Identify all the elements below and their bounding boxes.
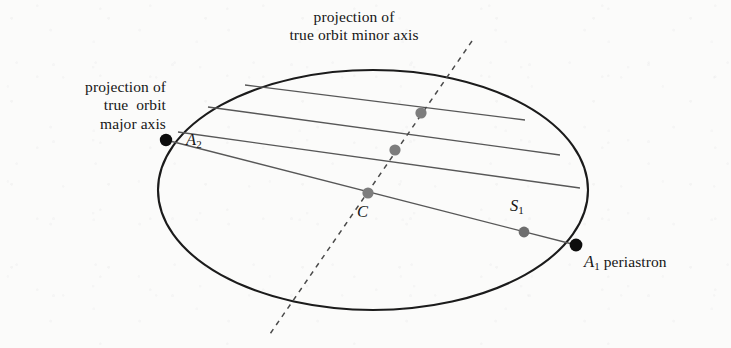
point-mid-2 (389, 144, 400, 155)
point-a2 (160, 134, 172, 146)
point-label-a2: A2 (186, 130, 202, 150)
projected-orbit-ellipse (158, 70, 588, 310)
point-label-a2-letter: A (186, 130, 196, 149)
point-label-a1-periastron: A1 periastron (584, 252, 667, 272)
minor-axis-group (270, 41, 472, 334)
point-label-a1-note: periastron (600, 253, 667, 270)
point-a1 (570, 239, 583, 252)
chord-2 (208, 107, 560, 155)
point-label-s1: S1 (510, 196, 524, 216)
major-axis-caption: projection of true orbit major axis (14, 78, 166, 133)
point-label-s1-subscript: 1 (518, 204, 524, 216)
point-label-a2-subscript: 2 (196, 138, 202, 150)
diagram-canvas (0, 0, 731, 348)
point-label-a1-letter: A (584, 252, 594, 271)
minor-axis-caption: projection of true orbit minor axis (252, 8, 456, 45)
point-s1 (519, 227, 530, 238)
point-label-center: C (357, 202, 368, 221)
orbit-projection-diagram: projection of true orbit major axis proj… (0, 0, 731, 348)
parallel-chords-group (166, 85, 580, 245)
chord-1 (245, 85, 525, 120)
point-center (362, 187, 373, 198)
minor-axis-dashed-line (270, 41, 472, 334)
chord-3 (178, 132, 580, 188)
ellipse-group (158, 70, 588, 310)
point-mid-1 (415, 107, 426, 118)
